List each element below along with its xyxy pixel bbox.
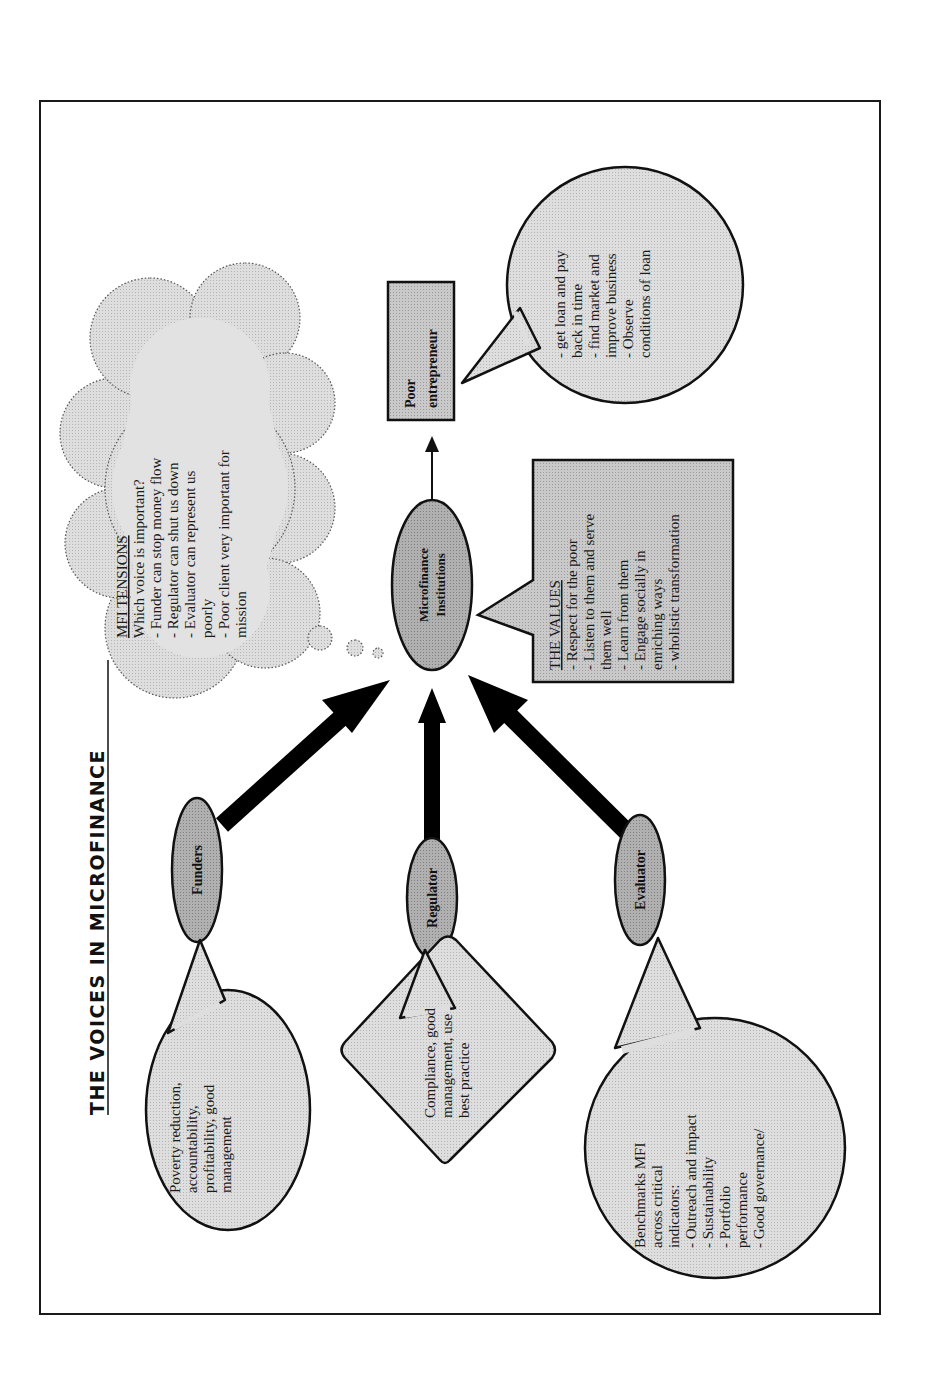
regulator-bubble-line: best practice [456,1042,472,1118]
regulator-speech-bubble: Compliance, good management, use best pr… [342,937,556,1164]
tensions-heading: MFI TENSIONS [114,535,130,638]
entrepreneur-node[interactable]: Poor entrepreneur [388,282,454,420]
funders-bubble-line: management [218,1116,234,1193]
tensions-cloud: MFI TENSIONS Which voice is important? -… [60,263,383,698]
mfi-label-line2: Institutions [433,553,448,617]
funders-to-mfi-arrow [222,680,390,825]
diagram-canvas: THE VOICES IN MICROFINANCE [0,0,932,1388]
evaluator-bubble-line: performance [734,1172,750,1248]
evaluator-bubble-line: - Outreach and impact [683,1113,699,1248]
page-title: THE VOICES IN MICROFINANCE [86,749,108,1115]
entrepreneur-bubble-line: - find market and [586,254,602,358]
values-line: - Engage socially in [632,550,648,670]
regulator-bubble-line: management, use [439,1014,455,1118]
title-group: THE VOICES IN MICROFINANCE [86,660,108,1115]
values-line: - Learn from them [615,559,631,670]
funders-speech-bubble: Poverty reduction, accountability, profi… [146,940,310,1230]
evaluator-to-mfi-arrow [468,675,628,833]
regulator-label: Regulator [425,868,440,928]
mfi-node[interactable]: Microfinance Institutions [392,500,472,670]
funders-label: Funders [190,845,205,895]
evaluator-bubble-line: - Portfolio [717,1186,733,1248]
values-line: - wholistic transformation [666,514,682,670]
entrepreneur-bubble-line: back in time [569,284,585,358]
tensions-line: Which voice is important? [131,479,147,638]
evaluator-bubble-line: across critical [649,1165,665,1248]
entrepreneur-bubble-line: - get loan and pay [552,250,568,358]
evaluator-bubble-line: indicators: [666,1185,682,1248]
values-line: them well [598,610,614,670]
regulator-bubble-line: Compliance, good [422,1008,438,1118]
evaluator-speech-bubble: Benchmarks MFI across critical indicator… [585,938,845,1278]
values-callout: THE VALUES - Respect for the poor - List… [478,460,733,682]
evaluator-bubble-line: - Good governance/ [751,1128,767,1248]
entrepreneur-label-line1: Poor [403,379,418,408]
values-heading: THE VALUES [547,580,563,670]
values-line: - Listen to them and serve [581,513,597,670]
evaluator-bubble-line: - Sustainability [700,1156,716,1248]
funders-node[interactable]: Funders [172,798,222,942]
mfi-label-line1: Microfinance [416,548,431,622]
regulator-to-mfi-arrow [418,688,446,840]
tensions-line: - Evaluator can represent us [182,470,198,638]
entrepreneur-bubble-line: - Observe [620,299,636,358]
funders-bubble-line: Poverty reduction, [167,1082,183,1193]
tensions-line: mission [233,591,249,638]
values-line: - Respect for the poor [564,539,580,670]
tensions-line: - Regulator can shut us down [165,462,181,638]
values-line: enriching ways [649,579,665,670]
tensions-line: poorly [199,598,215,638]
tensions-line: - Poor client very important for [216,450,232,638]
funders-bubble-line: accountability, [184,1105,200,1193]
entrepreneur-speech-bubble: - get loan and pay back in time - find m… [460,167,760,507]
entrepreneur-bubble-line: conditions of loan [637,249,653,358]
entrepreneur-label-line2: entrepreneur [425,329,440,408]
evaluator-label: Evaluator [633,850,648,910]
funders-bubble-line: profitability, good [201,1084,217,1193]
entrepreneur-bubble-line: improve business [603,253,619,358]
tensions-line: - Funder can stop money flow [148,457,164,638]
evaluator-node[interactable]: Evaluator [615,815,665,945]
mfi-to-entrepreneur-arrow [425,436,439,500]
evaluator-bubble-line: Benchmarks MFI [632,1143,648,1248]
